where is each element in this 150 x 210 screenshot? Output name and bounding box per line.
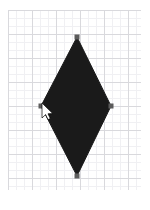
drawing-canvas[interactable]: [8, 10, 141, 190]
app-window: [0, 0, 150, 210]
